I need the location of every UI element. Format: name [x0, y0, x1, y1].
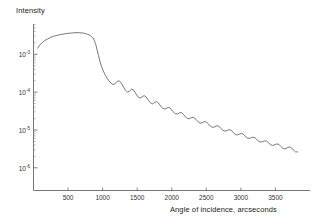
x-tick-label: 1000: [95, 194, 109, 201]
axes-group: [34, 24, 311, 191]
plot-canvas: [0, 0, 314, 223]
y-tick-label: 10-3: [6, 50, 30, 58]
y-tick-marks: [34, 54, 38, 168]
x-tick-label: 3000: [234, 194, 248, 201]
x-tick-label: 2500: [199, 194, 213, 201]
x-tick-label: 3500: [268, 194, 282, 201]
y-tick-label: 10-5: [6, 126, 30, 134]
reflectivity-curve: [38, 33, 298, 152]
xray-reflectivity-chart: Intensity 500100015002000250030003500 10…: [0, 0, 314, 223]
y-tick-label: 10-4: [6, 88, 30, 96]
x-axis-title: Angle of incidence, arcseconds: [170, 205, 277, 214]
y-tick-label: 10-6: [6, 164, 30, 172]
x-tick-label: 2000: [165, 194, 179, 201]
x-tick-label: 500: [63, 194, 74, 201]
x-tick-label: 1500: [130, 194, 144, 201]
